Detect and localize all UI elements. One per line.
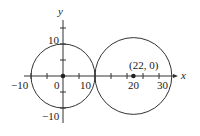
x-axis-label: x xyxy=(180,69,186,81)
point-label-22-0: (22, 0) xyxy=(129,59,159,72)
y-tick-label-10: 10 xyxy=(48,34,60,46)
y-tick-label-neg10: −10 xyxy=(42,110,60,122)
x-tick-label-10: 10 xyxy=(80,79,92,91)
x-tick-label-neg10: −10 xyxy=(11,79,29,91)
origin-point xyxy=(61,74,66,79)
center-point-22-0 xyxy=(131,74,136,79)
x-tick-label-30: 30 xyxy=(157,79,169,91)
circles-diagram: y x −10 0 10 20 30 10 −10 (22, 0) xyxy=(0,0,200,136)
x-tick-label-0: 0 xyxy=(54,79,60,91)
x-axis-arrow-icon xyxy=(173,74,178,78)
y-axis-label: y xyxy=(57,5,63,17)
x-tick-label-20: 20 xyxy=(128,79,140,91)
